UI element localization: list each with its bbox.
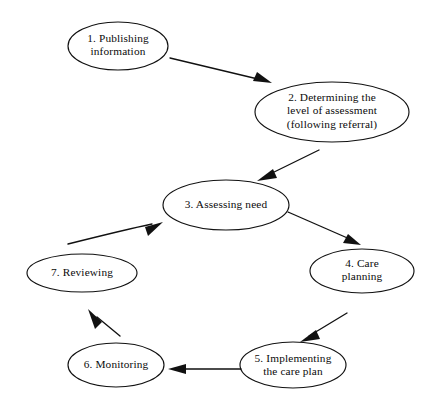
node-3-assessing-need[interactable]	[163, 180, 289, 230]
edge-3-to-4-arrowhead	[343, 234, 361, 245]
edge-1-to-2-arrowhead	[253, 72, 272, 83]
edge-5-to-6-arrowhead	[168, 364, 186, 374]
flowchart-diagram: 1. Publishing information 2. Determining…	[0, 0, 435, 412]
edge-4-to-5	[300, 313, 347, 342]
node-1-publishing-information[interactable]	[68, 22, 168, 70]
edge-6-to-7	[88, 309, 120, 336]
flowchart-canvas	[0, 0, 435, 412]
edge-2-to-3-arrowhead	[257, 169, 277, 181]
node-2-determining-level-of-assessment[interactable]	[255, 82, 409, 142]
edge-1-to-2	[170, 58, 272, 83]
node-6-monitoring[interactable]	[68, 343, 164, 387]
edge-7-to-3	[68, 222, 163, 244]
node-5-implementing-the-care-plan[interactable]	[240, 342, 346, 388]
edge-7-to-3-arrowhead	[145, 222, 163, 236]
node-7-reviewing[interactable]	[27, 254, 137, 292]
edge-2-to-3	[257, 150, 319, 181]
node-4-care-planning[interactable]	[310, 249, 414, 293]
edge-3-to-4	[288, 212, 361, 245]
edge-5-to-6	[168, 364, 241, 374]
